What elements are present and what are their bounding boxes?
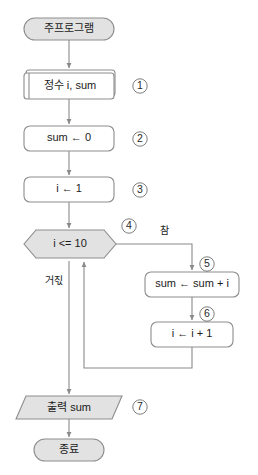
increment-label: i ← i + 1 (172, 327, 213, 339)
init-i-label: i ← 1 (56, 182, 82, 194)
marker-output: 7 (133, 400, 147, 414)
declare-label: 정수 i, sum (44, 79, 96, 91)
node-init-sum[interactable]: sum ← 0 (24, 126, 114, 151)
branch-label-true: 참 (160, 225, 169, 236)
branch-label-false: 거짃 (45, 275, 63, 286)
node-accumulate[interactable]: sum ← sum + i (145, 272, 239, 297)
node-increment[interactable]: i ← i + 1 (151, 322, 233, 347)
marker-accumulate: 5 (200, 257, 214, 271)
marker-init-sum: 2 (133, 132, 147, 146)
increment-marker-label: 6 (204, 307, 210, 319)
output-label: 출력 sum (47, 401, 91, 413)
marker-declare: 1 (133, 79, 147, 93)
node-start[interactable]: 주프로그램 (24, 18, 114, 40)
init-sum-marker-label: 2 (137, 132, 143, 144)
marker-condition: 4 (122, 219, 136, 233)
node-end[interactable]: 종료 (34, 439, 104, 461)
accumulate-marker-label: 5 (204, 257, 210, 269)
condition-label: i <= 10 (53, 237, 87, 249)
end-label: 종료 (59, 443, 79, 455)
init-sum-label: sum ← 0 (47, 131, 91, 143)
node-declare[interactable]: 정수 i, sum (24, 70, 115, 99)
start-label: 주프로그램 (44, 22, 94, 34)
marker-init-i: 3 (133, 183, 147, 197)
flowchart-canvas: 주프로그램 정수 i, sum 1 sum ← 0 2 i ← 1 (0, 0, 258, 475)
init-i-marker-label: 3 (137, 183, 143, 195)
declare-marker-label: 1 (137, 79, 143, 91)
accumulate-label: sum ← sum + i (155, 277, 229, 289)
connector-condition-true (116, 244, 192, 270)
output-marker-label: 7 (137, 400, 143, 412)
flowchart-svg: 주프로그램 정수 i, sum 1 sum ← 0 2 i ← 1 (0, 0, 258, 475)
node-output[interactable]: 출력 sum (16, 396, 122, 419)
node-condition[interactable]: i <= 10 (24, 230, 116, 258)
node-init-i[interactable]: i ← 1 (24, 177, 114, 202)
condition-marker-label: 4 (126, 219, 132, 231)
marker-increment: 6 (200, 307, 214, 321)
